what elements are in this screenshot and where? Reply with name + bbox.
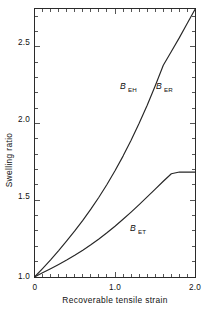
curve-bet <box>35 172 196 277</box>
curve-label-beh-base: B <box>120 81 126 91</box>
y-axis-title: Swelling ratio <box>4 133 14 188</box>
curve-beh-ber <box>35 9 196 278</box>
swelling-ratio-line-chart: 0 1.0 2.0 2.5 2.0 1.5 1.0 Recoverable te… <box>0 0 204 311</box>
curve-label-ber: B ER <box>156 81 173 93</box>
x-tick-label-2: 2.0 <box>189 283 201 292</box>
x-axis-title: Recoverable tensile strain <box>62 295 167 305</box>
curve-label-ber-base: B <box>156 81 162 91</box>
axis-ticks <box>35 9 196 278</box>
curve-label-bet-base: B <box>130 223 136 233</box>
x-tick-label-1: 1.0 <box>109 283 121 292</box>
curve-label-beh: B EH <box>120 81 137 93</box>
curve-label-bet: B ET <box>130 223 146 235</box>
data-curves <box>35 9 196 278</box>
curve-label-ber-sub: ER <box>164 86 173 93</box>
chart-figure: 0 1.0 2.0 2.5 2.0 1.5 1.0 Recoverable te… <box>0 0 204 311</box>
y-tick-label-1-0: 1.0 <box>18 272 30 281</box>
x-tick-label-0: 0 <box>33 283 38 292</box>
curve-label-beh-sub: EH <box>128 86 137 93</box>
curve-label-bet-sub: ET <box>138 228 146 235</box>
plot-frame <box>35 9 196 278</box>
y-tick-label-2-5: 2.5 <box>18 38 30 47</box>
y-tick-label-1-5: 1.5 <box>18 192 30 201</box>
y-tick-label-2-0: 2.0 <box>18 115 30 124</box>
